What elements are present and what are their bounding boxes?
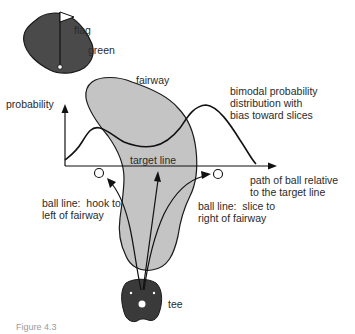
- path-label: path of ball relative to the target line: [250, 174, 338, 198]
- probability-label: probability: [6, 98, 54, 110]
- golf-shot-diagram: [0, 0, 355, 334]
- hook-label: ball line: hook to left of fairway: [42, 197, 121, 221]
- slice-ball-icon: [214, 170, 223, 179]
- hook-arrow-icon: [107, 178, 116, 188]
- flag-label: flag: [74, 24, 91, 36]
- fairway-label: fairway: [136, 74, 169, 86]
- tee-marker-right-icon: [153, 292, 155, 294]
- figure-caption: Figure 4.3: [16, 322, 57, 332]
- tee-shape: [122, 279, 162, 321]
- tee-marker-left-icon: [130, 292, 132, 294]
- slice-arrow-icon: [201, 171, 211, 179]
- target-line-arrow-icon: [268, 163, 277, 170]
- slice-label: ball line: slice to right of fairway: [198, 200, 275, 224]
- green-label: green: [88, 44, 115, 56]
- green-shape: [24, 13, 94, 73]
- probability-axis-arrow-icon: [62, 104, 69, 113]
- tee-label: tee: [168, 298, 183, 310]
- distribution-label: bimodal probability distribution with bi…: [230, 85, 318, 121]
- target-line-label: target line: [130, 154, 176, 166]
- tee-hole-icon: [139, 301, 146, 308]
- hole-icon: [58, 65, 63, 70]
- hook-ball-icon: [95, 169, 104, 178]
